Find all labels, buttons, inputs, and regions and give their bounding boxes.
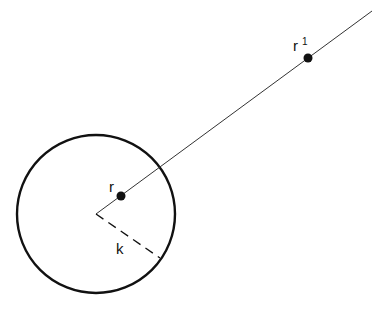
point-r-dot [117,192,126,201]
label-k: k [116,240,124,257]
point-r-prime-dot [304,54,313,63]
radius-dashed-line [96,214,160,258]
label-r: r [109,178,114,195]
diagram-canvas: r r 1 k [0,0,388,309]
ray-line [96,11,372,214]
label-r-prime-superscript: 1 [302,36,308,47]
label-r-prime: r [293,37,298,54]
